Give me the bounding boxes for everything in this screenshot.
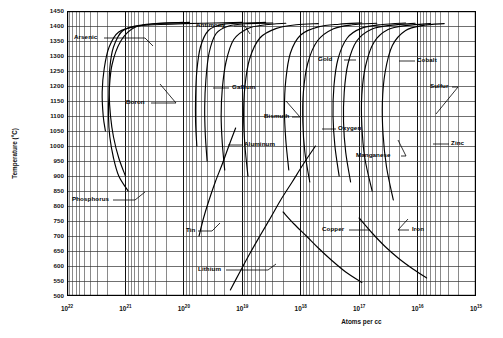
y-tick-label: 1150	[50, 98, 64, 104]
callout-label-boron: Boron	[126, 99, 145, 105]
y-tick-label: 1000	[50, 143, 64, 149]
curve-aluminum	[221, 23, 286, 170]
curve-bismuth	[244, 24, 319, 176]
curve-gold	[284, 23, 361, 170]
callout-label-gold: Gold	[318, 56, 333, 62]
y-tick-label: 1450	[50, 8, 64, 14]
callout-label-cobalt: Cobalt	[417, 57, 437, 63]
callout-label-gallium: Gallium	[232, 84, 255, 90]
y-tick-label: 1250	[50, 68, 64, 74]
y-tick-label: 1350	[50, 38, 64, 44]
x-tick-label: 1022	[61, 305, 73, 313]
callout-label-oxygen: Oxygen	[338, 125, 361, 131]
callout-label-tin: Tin	[186, 227, 195, 233]
callout-label-phosphorus: Phosphorus	[72, 196, 109, 202]
x-tick-label: 1017	[353, 305, 365, 313]
x-tick-label: 1016	[411, 305, 423, 313]
callout-label-aluminum: Aluminum	[244, 141, 275, 147]
callout-label-iron: Iron	[412, 226, 424, 232]
y-tick-label: 1400	[50, 23, 64, 29]
y-tick-label: 1200	[50, 83, 64, 89]
y-tick-label: 800	[53, 203, 64, 209]
y-tick-label: 1300	[50, 53, 64, 59]
y-tick-label: 550	[53, 278, 64, 284]
x-tick-label: 1021	[119, 305, 131, 313]
y-tick-label: 600	[53, 263, 64, 269]
callout-label-bismuth: Bismuth	[264, 113, 289, 119]
y-tick-label: 1050	[50, 128, 64, 134]
y-tick-label: 650	[53, 248, 64, 254]
y-tick-label: 750	[53, 218, 64, 224]
y-axis-title: Temperature (°C)	[11, 109, 18, 199]
callout-label-arsenic: Arsenic	[74, 34, 97, 40]
y-tick-label: 950	[53, 158, 64, 164]
callout-label-copper: Copper	[322, 226, 344, 232]
x-tick-label: 1015	[470, 305, 482, 313]
curve-boron	[109, 22, 189, 176]
x-tick-label: 1018	[295, 305, 307, 313]
callout-label-sulfur: Sulfur	[430, 83, 448, 89]
callout-label-lithium: Lithium	[198, 266, 221, 272]
x-tick-label: 1019	[236, 305, 248, 313]
curve-phosphorus	[108, 22, 183, 191]
y-axis-tick-labels: 1450140013501300125012001150110010501000…	[28, 0, 64, 338]
callout-label-antimony: Antimony	[196, 22, 225, 28]
grid-and-curves	[67, 11, 476, 296]
chart-figure: 1450140013501300125012001150110010501000…	[0, 0, 503, 338]
curve-tin	[199, 128, 236, 236]
callout-label-manganese: Manganese	[356, 152, 391, 158]
y-tick-label: 900	[53, 173, 64, 179]
curve-copper	[283, 212, 362, 283]
y-tick-label: 700	[53, 233, 64, 239]
x-tick-label: 1020	[178, 305, 190, 313]
x-axis-title: Atoms per cc	[341, 318, 382, 325]
y-tick-label: 850	[53, 188, 64, 194]
callout-label-zinc: Zinc	[451, 140, 464, 146]
y-tick-label: 1100	[50, 113, 64, 119]
plot-area	[67, 11, 476, 296]
y-tick-label: 500	[53, 293, 64, 299]
